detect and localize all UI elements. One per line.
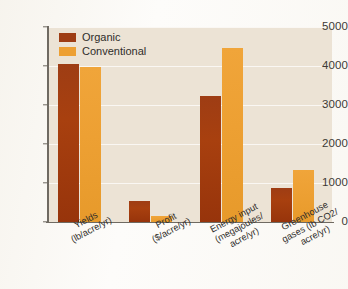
y-tick-mark: [43, 221, 48, 222]
bar-organic: [271, 188, 292, 222]
legend-item-conventional: Conventional: [59, 46, 146, 57]
bar-conventional: [80, 67, 101, 222]
y-tick-mark: [43, 104, 48, 105]
grouped-bar-chart: 010002000300040005000 Organic Convention…: [0, 0, 348, 289]
legend: Organic Conventional: [59, 32, 146, 57]
legend-label-conventional: Conventional: [82, 46, 146, 57]
y-tick-mark: [43, 65, 48, 66]
y-tick-label: 2000: [306, 138, 348, 150]
bar-organic: [200, 96, 221, 222]
y-tick-label: 4000: [306, 60, 348, 72]
y-tick-label: 3000: [306, 99, 348, 111]
gridline: [48, 27, 332, 28]
y-tick-label: 5000: [306, 21, 348, 33]
y-tick-mark: [43, 26, 48, 27]
y-axis-line: [47, 26, 49, 223]
y-tick-mark: [43, 182, 48, 183]
bar-conventional: [222, 48, 243, 222]
legend-label-organic: Organic: [82, 32, 121, 43]
bar-organic: [129, 201, 150, 222]
legend-swatch-organic: [59, 33, 76, 42]
chart-screenshot: 010002000300040005000 Organic Convention…: [0, 0, 348, 289]
legend-item-organic: Organic: [59, 32, 146, 43]
y-tick-mark: [43, 143, 48, 144]
legend-swatch-conventional: [59, 47, 76, 56]
bar-organic: [58, 64, 79, 222]
